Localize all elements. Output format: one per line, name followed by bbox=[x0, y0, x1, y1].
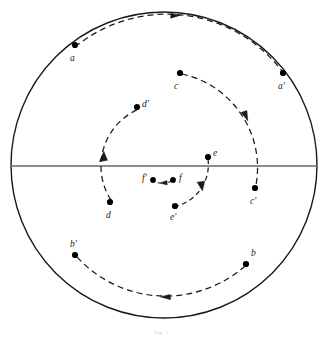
point-label-d-prime: d' bbox=[142, 100, 149, 110]
point-d bbox=[107, 199, 113, 205]
arrowhead-arc-b bbox=[161, 295, 171, 300]
point-b-prime bbox=[72, 252, 78, 258]
arc-d-to-d-prime bbox=[101, 109, 139, 200]
arc-b-to-b-prime bbox=[77, 257, 245, 296]
point-a bbox=[72, 42, 78, 48]
figure-caption: Fig. 1 bbox=[0, 330, 323, 335]
point-c bbox=[177, 70, 183, 76]
arrowhead-arc-d bbox=[100, 152, 108, 162]
point-label-b: b bbox=[251, 249, 256, 259]
point-label-f-prime: f' bbox=[142, 174, 147, 184]
arrowhead-arc-f bbox=[160, 181, 167, 185]
point-label-f: f bbox=[179, 174, 182, 184]
point-label-c-prime: c' bbox=[250, 197, 256, 207]
point-f bbox=[170, 177, 176, 183]
point-label-a: a bbox=[70, 54, 75, 64]
point-e-prime bbox=[172, 203, 178, 209]
point-label-e-prime: e' bbox=[170, 213, 176, 223]
point-d-prime bbox=[134, 104, 140, 110]
point-c-prime bbox=[252, 185, 258, 191]
point-f-prime bbox=[150, 177, 156, 183]
point-label-e: e bbox=[213, 149, 217, 159]
point-b bbox=[243, 261, 249, 267]
arrowhead-arc-e bbox=[197, 181, 204, 191]
figure-container: a a' b b' c c' d d' e e' f f' Fig. 1 bbox=[0, 0, 323, 340]
point-label-b-prime: b' bbox=[70, 240, 77, 250]
point-label-d: d bbox=[106, 211, 111, 221]
point-label-c: c bbox=[174, 82, 178, 92]
point-label-a-prime: a' bbox=[278, 82, 285, 92]
point-e bbox=[205, 154, 211, 160]
figure-canvas bbox=[0, 0, 323, 340]
point-a-prime bbox=[280, 70, 286, 76]
arc-c-to-c-prime bbox=[182, 74, 258, 185]
